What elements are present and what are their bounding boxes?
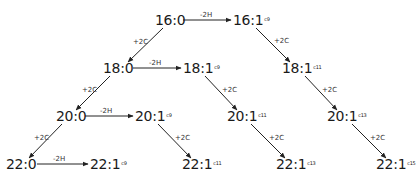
edge-label: +2C bbox=[274, 37, 289, 45]
fatty-acid-node: 22:1c13 bbox=[276, 156, 315, 172]
fatty-acid-node: 20:1c11 bbox=[227, 108, 266, 124]
edge-label: +2C bbox=[322, 86, 337, 94]
edge-label: -2H bbox=[149, 59, 161, 67]
node-label: 20:1 bbox=[135, 108, 165, 124]
node-label: 20:1 bbox=[327, 108, 357, 124]
node-label: 22:1 bbox=[182, 156, 212, 172]
node-label: 20:0 bbox=[56, 108, 86, 124]
edge-label: +2C bbox=[175, 134, 190, 142]
edge-label: +2C bbox=[269, 134, 284, 142]
node-label: 18:0 bbox=[103, 60, 133, 76]
edge-label: +2C bbox=[82, 86, 97, 94]
edge-label: +2C bbox=[133, 38, 148, 46]
double-bond-position: c11 bbox=[313, 64, 321, 70]
node-label: 20:1 bbox=[227, 108, 257, 124]
fatty-acid-node: 20:1c9 bbox=[135, 108, 172, 124]
double-bond-position: c9 bbox=[214, 64, 219, 70]
double-bond-position: c13 bbox=[307, 160, 315, 166]
double-bond-position: c9 bbox=[121, 160, 126, 166]
double-bond-position: c13 bbox=[358, 112, 366, 118]
double-bond-position: c9 bbox=[166, 112, 171, 118]
double-bond-position: c11 bbox=[213, 160, 221, 166]
fatty-acid-node: 18:1c11 bbox=[282, 60, 321, 76]
node-label: 16:1 bbox=[233, 12, 263, 28]
edge-label: +2C bbox=[34, 134, 49, 142]
fatty-acid-node: 20:1c13 bbox=[327, 108, 366, 124]
double-bond-position: c9 bbox=[264, 16, 269, 22]
node-label: 22:1 bbox=[376, 156, 406, 172]
edge-label: +2C bbox=[222, 86, 237, 94]
node-label: 22:1 bbox=[90, 156, 120, 172]
edge-label: +2C bbox=[370, 134, 385, 142]
node-label: 22:0 bbox=[6, 156, 36, 172]
fatty-acid-node: 16:0 bbox=[155, 12, 185, 28]
edge-label: -2H bbox=[53, 155, 65, 163]
node-label: 18:1 bbox=[282, 60, 312, 76]
fatty-acid-node: 22:0 bbox=[6, 156, 36, 172]
fatty-acid-node: 20:0 bbox=[56, 108, 86, 124]
fatty-acid-node: 22:1c15 bbox=[376, 156, 415, 172]
node-label: 16:0 bbox=[155, 12, 185, 28]
edge-label: -2H bbox=[100, 107, 112, 115]
fatty-acid-node: 22:1c9 bbox=[90, 156, 127, 172]
node-label: 18:1 bbox=[183, 60, 213, 76]
fatty-acid-node: 18:0 bbox=[103, 60, 133, 76]
node-label: 22:1 bbox=[276, 156, 306, 172]
fatty-acid-node: 18:1c9 bbox=[183, 60, 220, 76]
double-bond-position: c15 bbox=[407, 160, 415, 166]
fatty-acid-node: 22:1c11 bbox=[182, 156, 221, 172]
fatty-acid-elongation-diagram: -2H-2H-2H-2H+2C+2C+2C+2C+2C+2C+2C+2C+2C … bbox=[0, 0, 418, 184]
arrow-edge bbox=[256, 28, 290, 62]
fatty-acid-node: 16:1c9 bbox=[233, 12, 270, 28]
double-bond-position: c11 bbox=[258, 112, 266, 118]
edge-label: -2H bbox=[200, 11, 212, 19]
